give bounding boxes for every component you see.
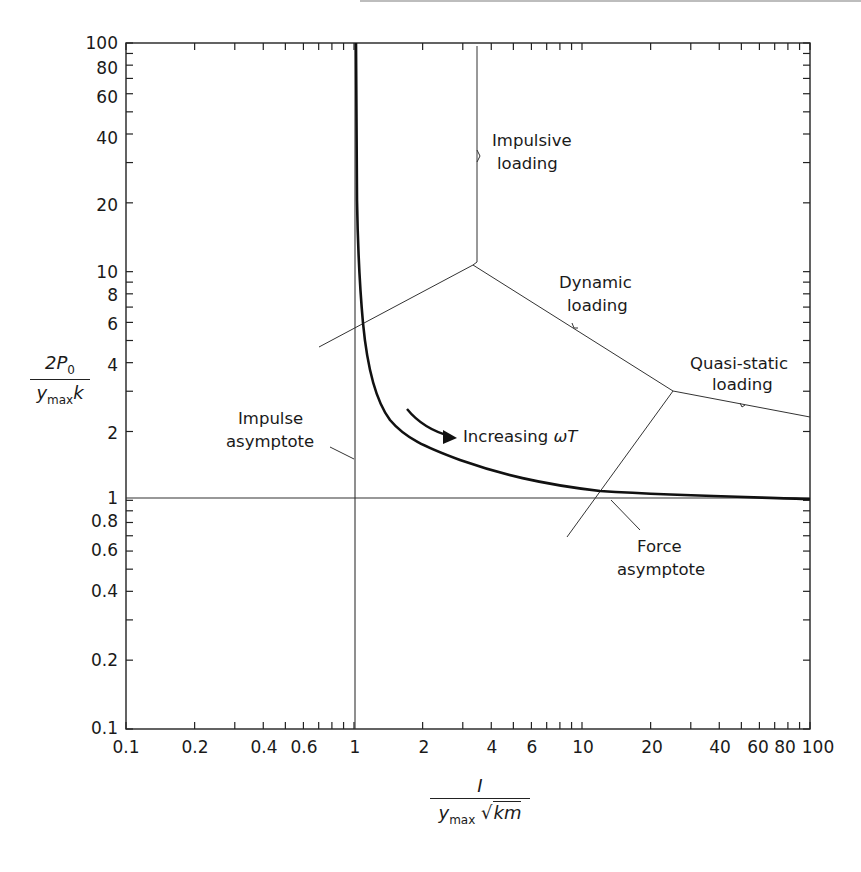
y-tick-4: 4 [107,355,118,375]
x-tick-0.2: 0.2 [181,737,208,757]
y-tick-100: 100 [86,33,118,53]
y-tick-80: 80 [96,58,118,78]
impulsive-dynamic-boundary [319,46,477,347]
x-tick-40: 40 [709,737,731,757]
x-axis-label-denominator: ymax √km [430,799,530,827]
x-tick-20: 20 [641,737,663,757]
x-tick-100: 100 [802,737,834,757]
y-tick-20: 20 [96,195,118,215]
x-axis-label: I ymax √km [430,775,530,827]
y-axis-ticks [126,43,810,729]
y-tick-8: 8 [107,285,118,305]
y-tick-0.1: 0.1 [91,718,118,738]
quasistatic-lower-boundary [567,391,673,537]
y-tick-labels: 100 80 60 40 20 10 8 6 4 2 1 0.8 0.6 0.4… [86,33,118,738]
force-asymptote-leader [611,500,640,530]
x-axis-label-numerator: I [430,775,530,799]
force-asymptote-label-1: Force [637,537,682,556]
dynamic-loading-label-2: loading [567,296,628,315]
impulse-asymptote-label-2: asymptote [226,432,314,451]
x-tick-labels: 0.1 0.2 0.4 0.6 1 2 4 6 10 20 40 60 80 1… [112,737,834,757]
impulse-asymptote-label-1: Impulse [238,409,303,428]
y-tick-1: 1 [107,488,118,508]
y-tick-40: 40 [96,128,118,148]
y-tick-60: 60 [96,87,118,107]
dynamic-quasistatic-boundary [473,265,810,417]
y-tick-0.6: 0.6 [91,540,118,560]
y-tick-10: 10 [96,262,118,282]
x-tick-0.6: 0.6 [290,737,317,757]
x-tick-80: 80 [774,737,796,757]
x-tick-10: 10 [572,737,594,757]
y-tick-0.2: 0.2 [91,650,118,670]
quasistatic-brace [740,403,745,407]
increasing-omega-t-label: Increasing ωT [463,427,579,446]
quasistatic-loading-label-1: Quasi-static [690,354,788,373]
dynamic-brace [572,323,578,328]
y-tick-6: 6 [107,314,118,334]
force-asymptote-label-2: asymptote [617,560,705,579]
arrow-head-icon [443,430,457,444]
x-tick-2: 2 [419,737,430,757]
x-tick-6: 6 [527,737,538,757]
chart-svg: 100 80 60 40 20 10 8 6 4 2 1 0.8 0.6 0.4… [0,0,861,872]
x-tick-0.1: 0.1 [112,737,139,757]
y-tick-0.4: 0.4 [91,581,118,601]
y-axis-label-numerator: 2P0 [30,352,90,380]
x-tick-0.4: 0.4 [250,737,277,757]
x-axis-ticks [126,43,810,729]
y-tick-0.8: 0.8 [91,511,118,531]
x-tick-1: 1 [350,737,361,757]
dynamic-loading-label-1: Dynamic [559,273,632,292]
impulsive-loading-label-1: Impulsive [492,131,572,150]
y-tick-2: 2 [107,423,118,443]
x-tick-60: 60 [747,737,769,757]
y-axis-label-denominator: ymaxk [30,380,90,407]
impulsive-loading-label-2: loading [497,154,558,173]
plot-frame [126,43,810,729]
impulse-asymptote-leader [330,447,354,459]
quasistatic-loading-label-2: loading [712,375,773,394]
shock-spectrum-curve [356,43,810,499]
y-axis-label: 2P0 ymaxk [30,352,90,406]
x-tick-4: 4 [487,737,498,757]
